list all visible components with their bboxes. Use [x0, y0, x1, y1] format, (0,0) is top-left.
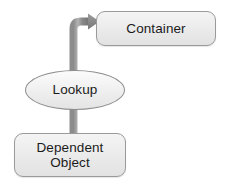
node-container-label: Container: [126, 21, 185, 36]
node-lookup-label: Lookup: [53, 82, 98, 97]
diagram-canvas: Container Lookup Dependent Object: [0, 0, 228, 181]
node-dependent-object[interactable]: Dependent Object: [14, 133, 126, 177]
node-lookup[interactable]: Lookup: [25, 70, 125, 110]
node-container[interactable]: Container: [96, 11, 216, 46]
node-dependent-object-label: Dependent Object: [37, 140, 104, 170]
